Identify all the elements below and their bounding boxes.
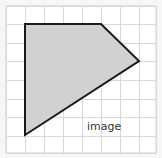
grid-diagram [0,0,162,158]
image-label: image [87,121,121,132]
